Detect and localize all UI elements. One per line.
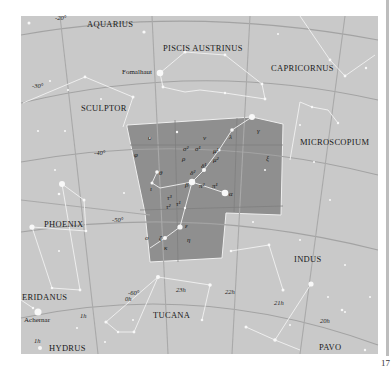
svg-text:21h: 21h xyxy=(274,299,284,306)
svg-text:η: η xyxy=(187,236,191,244)
label-fomalhaut: Fomalhaut xyxy=(122,68,152,76)
svg-text:σ²: σ² xyxy=(183,145,189,153)
star-chart: AQUARIUS PISCIS AUSTRINUS CAPRICORNUS SC… xyxy=(0,0,392,370)
svg-text:20h: 20h xyxy=(320,317,330,324)
svg-text:δ¹: δ¹ xyxy=(201,162,206,170)
svg-text:-50°: -50° xyxy=(112,216,124,223)
svg-text:-30°: -30° xyxy=(32,82,44,89)
label-phoenix: PHOENIX xyxy=(44,219,83,229)
label-microscopium: MICROSCOPIUM xyxy=(300,137,369,147)
page-edge-strip xyxy=(386,0,389,356)
svg-text:ρ: ρ xyxy=(181,155,186,163)
svg-text:δ²: δ² xyxy=(190,169,196,177)
svg-text:1h: 1h xyxy=(80,312,87,319)
svg-text:ε: ε xyxy=(185,222,188,230)
svg-text:22h: 22h xyxy=(225,288,235,295)
label-eridanus: ERIDANUS xyxy=(22,292,67,302)
label-piscis-austrinus: PISCIS AUSTRINUS xyxy=(163,43,243,53)
label-aquarius: AQUARIUS xyxy=(87,19,133,29)
label-sculptor: SCULPTOR xyxy=(81,103,127,113)
svg-text:θ: θ xyxy=(159,169,163,177)
svg-text:φ: φ xyxy=(134,151,138,159)
svg-text:ι: ι xyxy=(150,185,152,193)
svg-text:λ: λ xyxy=(228,133,232,141)
svg-text:π¹: π¹ xyxy=(212,182,218,190)
svg-text:1h: 1h xyxy=(34,337,41,344)
svg-text:υ: υ xyxy=(148,134,151,142)
svg-text:-20°: -20° xyxy=(55,14,67,21)
label-indus: INDUS xyxy=(294,254,321,264)
svg-text:π²: π² xyxy=(199,182,206,190)
svg-text:γ: γ xyxy=(257,127,260,135)
svg-text:β: β xyxy=(184,181,189,189)
page-number: 17 xyxy=(381,358,390,368)
label-achernar: Achernar xyxy=(24,316,51,324)
svg-text:σ¹: σ¹ xyxy=(195,145,201,153)
label-capricornus: CAPRICORNUS xyxy=(271,63,334,73)
label-hydrus: HYDRUS xyxy=(49,343,86,353)
svg-text:-40°: -40° xyxy=(94,149,106,156)
svg-text:23h: 23h xyxy=(176,286,186,293)
svg-text:μ¹: μ¹ xyxy=(213,147,219,155)
svg-text:ξ: ξ xyxy=(266,154,269,162)
svg-text:0h: 0h xyxy=(125,295,132,302)
svg-text:τ¹: τ¹ xyxy=(176,200,181,208)
svg-text:ο: ο xyxy=(145,234,149,242)
label-pavo: PAVO xyxy=(319,342,341,352)
svg-text:α: α xyxy=(229,190,233,198)
svg-text:μ²: μ² xyxy=(213,156,220,164)
label-tucana: TUCANA xyxy=(153,310,191,320)
